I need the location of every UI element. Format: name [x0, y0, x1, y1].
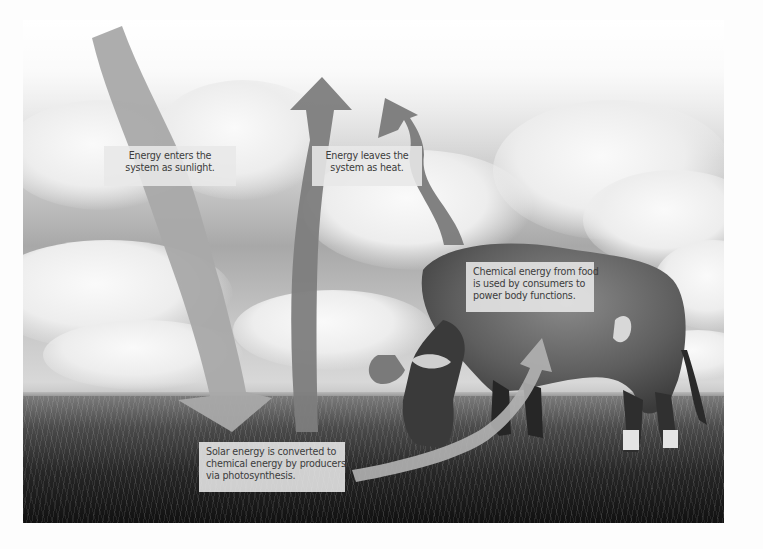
label-line: chemical energy by producers [206, 458, 338, 470]
energy-arrows [0, 0, 763, 549]
label-line: system as heat. [319, 162, 415, 174]
chemical-energy-arrow [352, 338, 552, 482]
sunlight-arrow [92, 26, 272, 432]
label-line: Energy enters the [111, 150, 229, 162]
label-line: is used by consumers to [473, 278, 587, 290]
label-producers: Solar energy is converted to chemical en… [199, 442, 345, 492]
label-energy-enters: Energy enters the system as sunlight. [104, 146, 236, 186]
label-line: Solar energy is converted to [206, 446, 338, 458]
heat-arrow-straight [290, 77, 352, 432]
label-line: system as sunlight. [111, 162, 229, 174]
label-consumers: Chemical energy from food is used by con… [466, 262, 594, 312]
label-line: Energy leaves the [319, 150, 415, 162]
label-energy-leaves: Energy leaves the system as heat. [312, 146, 422, 186]
label-line: via photosynthesis. [206, 470, 338, 482]
energy-flow-diagram: Energy enters the system as sunlight. En… [0, 0, 763, 549]
label-line: Chemical energy from food [473, 266, 587, 278]
label-line: power body functions. [473, 290, 587, 302]
